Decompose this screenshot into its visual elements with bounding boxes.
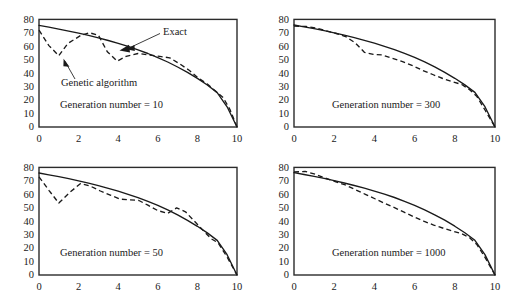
y-tick-label: 70 bbox=[279, 27, 290, 38]
y-tick-label: 30 bbox=[279, 81, 290, 92]
exact-annotation-label: Exact bbox=[163, 26, 187, 37]
y-tick-label: 60 bbox=[279, 189, 290, 200]
panel-gen-1000: 80 70 60 50 40 30 20 10 0 0 2 4 6 8 10 G… bbox=[255, 148, 515, 298]
panel-gen-300-plot: 80 70 60 50 40 30 20 10 0 0 2 4 6 8 10 G… bbox=[255, 0, 515, 150]
x-tick-label: 4 bbox=[372, 281, 378, 292]
plot-frame bbox=[294, 19, 495, 127]
x-tick-label: 10 bbox=[490, 133, 501, 144]
y-tick-label: 60 bbox=[24, 189, 35, 200]
x-tick-label: 8 bbox=[195, 133, 200, 144]
x-tick-label: 2 bbox=[332, 281, 337, 292]
curve-exact bbox=[294, 173, 495, 275]
y-tick-label: 30 bbox=[24, 81, 35, 92]
curve-genetic-algorithm bbox=[294, 171, 495, 275]
y-tick-label: 10 bbox=[279, 108, 290, 119]
y-tick-label: 80 bbox=[24, 14, 35, 25]
plot-frame bbox=[294, 167, 495, 275]
x-tick-label: 8 bbox=[452, 133, 457, 144]
x-tick-label: 10 bbox=[232, 281, 243, 292]
x-tick-label: 4 bbox=[372, 133, 378, 144]
y-tick-label: 80 bbox=[24, 162, 35, 173]
plot-frame bbox=[39, 19, 237, 127]
x-tick-label: 10 bbox=[232, 133, 243, 144]
y-tick-label: 20 bbox=[279, 94, 290, 105]
panel-note-label: Generation number = 50 bbox=[60, 247, 163, 258]
y-tick-label: 40 bbox=[24, 68, 35, 79]
y-tick-label: 0 bbox=[284, 269, 289, 280]
panel-gen-50-plot: 80 70 60 50 40 30 20 10 0 0 2 4 6 8 10 G… bbox=[0, 148, 250, 298]
x-tick-label: 4 bbox=[116, 133, 122, 144]
y-tick-label: 50 bbox=[279, 54, 290, 65]
ga-annotation-label: Genetic algorithm bbox=[61, 77, 137, 88]
plot-frame bbox=[39, 167, 237, 275]
y-tick-label: 0 bbox=[29, 269, 34, 280]
curve-exact bbox=[39, 173, 237, 275]
y-tick-label: 10 bbox=[24, 108, 35, 119]
x-tick-label: 10 bbox=[490, 281, 501, 292]
y-tick-label: 70 bbox=[24, 27, 35, 38]
y-tick-label: 70 bbox=[279, 175, 290, 186]
y-tick-label: 10 bbox=[279, 256, 290, 267]
panel-gen-300: 80 70 60 50 40 30 20 10 0 0 2 4 6 8 10 G… bbox=[255, 0, 515, 150]
y-tick-label: 40 bbox=[279, 68, 290, 79]
panel-gen-1000-plot: 80 70 60 50 40 30 20 10 0 0 2 4 6 8 10 G… bbox=[255, 148, 515, 298]
ga-arrowhead-icon bbox=[63, 59, 69, 67]
panel-gen-10: 80 70 60 50 40 30 20 10 0 0 2 4 6 8 10 E… bbox=[0, 0, 250, 150]
panel-gen-50: 80 70 60 50 40 30 20 10 0 0 2 4 6 8 10 G… bbox=[0, 148, 250, 298]
curve-genetic-algorithm bbox=[39, 177, 237, 275]
panel-note-label: Generation number = 10 bbox=[60, 99, 163, 110]
curve-exact bbox=[294, 25, 495, 127]
y-tick-label: 0 bbox=[29, 121, 34, 132]
y-tick-label: 80 bbox=[279, 14, 290, 25]
x-tick-label: 6 bbox=[412, 133, 417, 144]
figure-four-panel-convergence: 80 70 60 50 40 30 20 10 0 0 2 4 6 8 10 E… bbox=[0, 0, 515, 298]
y-tick-label: 60 bbox=[279, 41, 290, 52]
x-tick-label: 8 bbox=[452, 281, 457, 292]
y-tick-label: 20 bbox=[24, 94, 35, 105]
y-tick-label: 50 bbox=[24, 54, 35, 65]
y-tick-label: 40 bbox=[279, 216, 290, 227]
y-tick-label: 20 bbox=[24, 242, 35, 253]
curve-genetic-algorithm bbox=[294, 26, 495, 127]
panel-note-label: Generation number = 300 bbox=[332, 99, 440, 110]
y-tick-label: 60 bbox=[24, 41, 35, 52]
y-tick-label: 70 bbox=[24, 175, 35, 186]
x-tick-label: 2 bbox=[76, 133, 81, 144]
y-tick-label: 20 bbox=[279, 242, 290, 253]
y-tick-label: 40 bbox=[24, 216, 35, 227]
y-tick-label: 0 bbox=[284, 121, 289, 132]
y-tick-label: 50 bbox=[279, 202, 290, 213]
x-tick-label: 0 bbox=[291, 133, 296, 144]
x-tick-label: 8 bbox=[195, 281, 200, 292]
x-tick-label: 0 bbox=[36, 281, 41, 292]
x-tick-label: 6 bbox=[155, 281, 160, 292]
x-tick-label: 4 bbox=[116, 281, 122, 292]
x-tick-label: 2 bbox=[332, 133, 337, 144]
panel-note-label: Generation number = 1000 bbox=[332, 247, 446, 258]
y-tick-label: 10 bbox=[24, 256, 35, 267]
x-tick-label: 0 bbox=[36, 133, 41, 144]
y-tick-label: 30 bbox=[24, 229, 35, 240]
x-tick-label: 0 bbox=[291, 281, 296, 292]
x-tick-label: 2 bbox=[76, 281, 81, 292]
y-tick-label: 50 bbox=[24, 202, 35, 213]
y-tick-label: 80 bbox=[279, 162, 290, 173]
x-tick-label: 6 bbox=[412, 281, 417, 292]
y-tick-label: 30 bbox=[279, 229, 290, 240]
panel-gen-10-plot: 80 70 60 50 40 30 20 10 0 0 2 4 6 8 10 E… bbox=[0, 0, 250, 150]
x-tick-label: 6 bbox=[155, 133, 160, 144]
